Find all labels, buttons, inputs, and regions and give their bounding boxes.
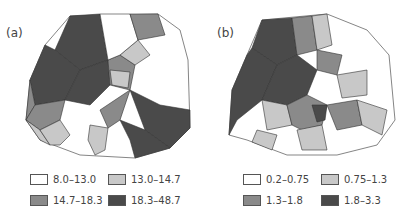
legend-item: 0.75–1.3 <box>321 173 401 185</box>
map-legend: 8.0–13.0 13.0–14.7 14.7–18.3 18.3–48.7 <box>30 173 210 215</box>
legend-swatch <box>243 195 261 206</box>
choropleth-map <box>20 10 195 160</box>
legend-swatch <box>321 195 339 206</box>
map-panel-b: (b) 0.2–0.75 0.75–1.3 1.3–1.8 1.8–3.3 <box>205 0 410 218</box>
legend-swatch <box>243 174 261 185</box>
legend-item: 1.3–1.8 <box>243 194 321 206</box>
choropleth-map <box>217 10 407 160</box>
legend-swatch <box>30 174 48 185</box>
legend-swatch <box>108 174 126 185</box>
legend-item: 1.8–3.3 <box>321 194 401 206</box>
legend-item: 14.7–18.3 <box>30 194 108 206</box>
legend-item: 18.3–48.7 <box>108 194 188 206</box>
legend-item: 13.0–14.7 <box>108 173 188 185</box>
legend-swatch <box>30 195 48 206</box>
legend-swatch <box>108 195 126 206</box>
legend-item: 8.0–13.0 <box>30 173 108 185</box>
map-panel-a: (a) 8.0–13.0 13.0–14.7 14.7–1 <box>0 0 205 218</box>
legend-swatch <box>321 174 339 185</box>
map-legend: 0.2–0.75 0.75–1.3 1.3–1.8 1.8–3.3 <box>243 173 411 215</box>
legend-item: 0.2–0.75 <box>243 173 321 185</box>
